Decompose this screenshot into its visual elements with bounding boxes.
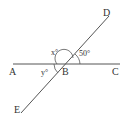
- label-E: E: [14, 104, 20, 115]
- angle-arc-y: [54, 64, 58, 73]
- geometry-diagram: D A B C E x° 50° y°: [0, 0, 125, 119]
- label-A: A: [9, 66, 17, 77]
- label-B: B: [62, 66, 69, 77]
- angle-label-y: y°: [41, 68, 48, 77]
- label-C: C: [112, 66, 119, 77]
- label-D: D: [103, 7, 110, 18]
- angle-label-50: 50°: [79, 49, 90, 58]
- angle-label-x: x°: [51, 48, 58, 57]
